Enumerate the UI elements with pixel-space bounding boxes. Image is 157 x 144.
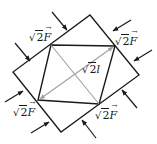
force-arrow-icon — [31, 122, 49, 133]
length-label-diagonal: √2l — [82, 64, 100, 75]
force-arrow-icon — [52, 12, 67, 30]
force-label-top-left: √2→F — [29, 32, 51, 43]
force-arrow-icon — [5, 91, 23, 102]
force-label-bottom-left: √2→F — [13, 107, 35, 118]
force-diagram — [0, 0, 157, 144]
vector-arrow-icon: → — [45, 25, 51, 32]
force-arrow-icon — [113, 20, 131, 31]
force-label-top-right: √2→F — [115, 36, 137, 47]
force-arrow-icon — [15, 43, 30, 61]
force-arrow-icon — [122, 90, 137, 108]
force-label-bottom-right: √2→F — [95, 110, 117, 121]
vector-arrow-icon: → — [29, 100, 35, 107]
force-arrow-icon — [82, 120, 96, 138]
vector-arrow-icon: → — [111, 103, 117, 110]
vector-arrow-icon: → — [131, 29, 137, 36]
force-arrow-icon — [134, 50, 152, 61]
